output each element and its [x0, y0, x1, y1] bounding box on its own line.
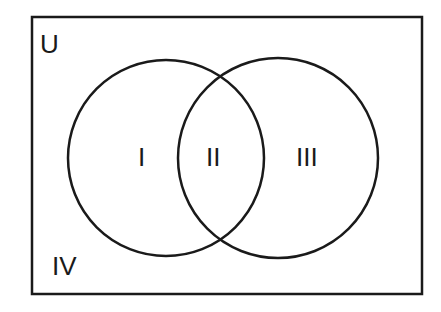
universe-label: U — [40, 29, 59, 59]
left-circle — [68, 60, 264, 256]
region-label-iv: IV — [52, 251, 77, 281]
universe-rectangle — [32, 17, 422, 294]
region-label-ii: II — [206, 142, 220, 172]
venn-diagram: U I II III IV — [0, 0, 441, 312]
region-label-i: I — [138, 142, 145, 172]
region-label-iii: III — [296, 142, 318, 172]
